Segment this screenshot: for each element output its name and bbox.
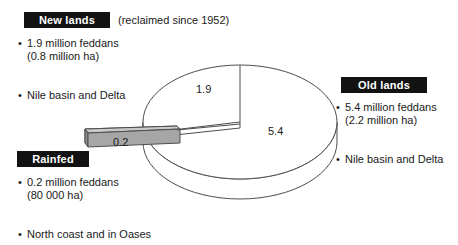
detail-line: (2.2 million ha) bbox=[336, 114, 443, 127]
spacer bbox=[18, 215, 151, 228]
category-chip-rainfed: Rainfed bbox=[17, 151, 89, 167]
category-details-new-lands: 1.9 million feddans (0.8 million ha) Nil… bbox=[18, 37, 125, 102]
pie-slice-dividers bbox=[147, 65, 240, 138]
figure-canvas: 1.9 5.4 0.2 New lands (reclaimed since 1… bbox=[0, 0, 458, 245]
spacer bbox=[18, 63, 125, 76]
detail-line: Nile basin and Delta bbox=[18, 89, 125, 102]
spacer bbox=[336, 127, 443, 140]
reclaimed-since-note: (reclaimed since 1952) bbox=[118, 14, 229, 26]
spacer bbox=[18, 76, 125, 89]
category-details-rainfed: 0.2 million feddans (80 000 ha) North co… bbox=[18, 176, 151, 241]
detail-line: North coast and in Oases bbox=[18, 228, 151, 241]
detail-line: 5.4 million feddans bbox=[336, 101, 443, 114]
pie-value-label-old-lands: 5.4 bbox=[268, 125, 283, 137]
spacer bbox=[336, 140, 443, 153]
category-chip-new-lands: New lands bbox=[24, 12, 110, 28]
pie-value-label-new-lands: 1.9 bbox=[196, 83, 211, 95]
spacer bbox=[18, 202, 151, 215]
pie-top-face bbox=[143, 65, 337, 179]
detail-line: Nile basin and Delta bbox=[336, 153, 443, 166]
detail-line: (0.8 million ha) bbox=[18, 50, 125, 63]
detail-line: 1.9 million feddans bbox=[18, 37, 125, 50]
category-chip-old-lands: Old lands bbox=[341, 77, 427, 93]
detail-line: (80 000 ha) bbox=[18, 189, 151, 202]
pie-3d-body bbox=[143, 122, 337, 199]
pie-explode-connector bbox=[177, 124, 240, 130]
pie-slice-rainfed-exploded bbox=[85, 126, 180, 147]
pie-value-label-rainfed: 0.2 bbox=[113, 136, 128, 148]
detail-line: 0.2 million feddans bbox=[18, 176, 151, 189]
category-details-old-lands: 5.4 million feddans (2.2 million ha) Nil… bbox=[336, 101, 443, 166]
